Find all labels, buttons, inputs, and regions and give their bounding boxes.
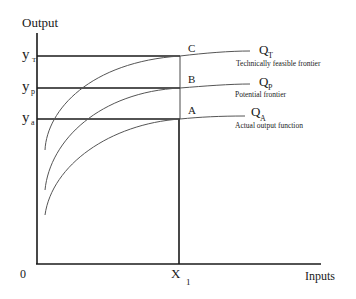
yT-label: y <box>22 46 30 62</box>
y-axis-label: Output <box>22 15 59 30</box>
qp-description: Potential frontier <box>235 90 287 99</box>
x1-label: X <box>171 266 181 281</box>
curve-qp <box>45 84 250 190</box>
production-frontier-diagram: Output Inputs 0 X 1 y T y p y a C B A Q … <box>0 0 356 299</box>
point-a-label: A <box>188 104 196 116</box>
ya-label: y <box>22 109 30 125</box>
ya-sub: a <box>31 118 35 127</box>
point-b-label: B <box>188 73 195 85</box>
qt-description: Technically feasible frontier <box>236 59 321 68</box>
qa-description: Actual output function <box>235 121 303 130</box>
x-axis-label: Inputs <box>305 269 335 283</box>
point-c-label: C <box>188 42 195 54</box>
curve-qt <box>45 51 250 150</box>
yp-sub: p <box>31 87 35 96</box>
yT-sub: T <box>32 56 37 64</box>
x1-sub: 1 <box>186 277 191 287</box>
yp-label: y <box>22 78 30 94</box>
origin-label: 0 <box>20 267 26 281</box>
